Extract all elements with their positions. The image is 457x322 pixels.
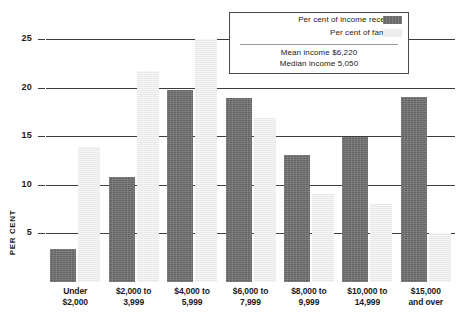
- bar-income-received: [50, 249, 76, 282]
- y-axis-tick-label: 5: [6, 227, 32, 237]
- x-axis-category-line: and over: [397, 297, 455, 308]
- bar-families: [370, 204, 392, 282]
- x-axis-category-label: $4,000 to5,999: [163, 286, 221, 308]
- x-axis-category-line: $15,000: [397, 286, 455, 297]
- y-axis-tick: [38, 39, 45, 40]
- y-axis-tick-label: 25: [6, 33, 32, 43]
- bar-families: [312, 194, 334, 282]
- y-axis-tick-label: 10: [6, 179, 32, 189]
- legend-note-mean: Mean income $6,220: [230, 47, 408, 58]
- legend-note-median: Median income 5,050: [230, 58, 408, 69]
- chart-legend: Per cent of income received Per cent of …: [229, 12, 409, 74]
- x-axis-category-line: $6,000 to: [221, 286, 279, 297]
- x-axis-category-label: $8,000 to9,999: [280, 286, 338, 308]
- legend-entry: Per cent of income received: [230, 13, 408, 26]
- y-axis-tick-label: 15: [6, 130, 32, 140]
- x-axis-category-line: 3,999: [104, 297, 162, 308]
- bar-group: [50, 20, 100, 282]
- bar-income-received: [342, 137, 368, 282]
- bar-income-received: [109, 177, 135, 282]
- x-axis-category-line: 9,999: [280, 297, 338, 308]
- x-axis-category-label: $2,000 to3,999: [104, 286, 162, 308]
- x-axis-category-label: Under$2,000: [46, 286, 104, 308]
- bar-income-received: [167, 90, 193, 282]
- x-axis-category-line: $8,000 to: [280, 286, 338, 297]
- x-axis-category-line: 5,999: [163, 297, 221, 308]
- bar-income-received: [226, 98, 252, 282]
- bar-families: [429, 233, 451, 282]
- y-axis-tick: [38, 233, 45, 234]
- y-axis-tick: [38, 136, 45, 137]
- bar-families: [78, 147, 100, 282]
- x-axis-category-line: $2,000: [46, 297, 104, 308]
- x-axis-category-line: 14,999: [338, 297, 396, 308]
- legend-entry: Per cent of families: [230, 26, 408, 39]
- x-axis-category-line: $4,000 to: [163, 286, 221, 297]
- bar-group: [109, 20, 159, 282]
- legend-divider: [240, 44, 398, 45]
- legend-swatch-families-icon: [383, 29, 402, 37]
- y-axis-tick: [38, 88, 45, 89]
- bar-income-received: [284, 155, 310, 282]
- x-axis-category-line: 7,999: [221, 297, 279, 308]
- x-axis-category-line: $10,000 to: [338, 286, 396, 297]
- bar-families: [195, 39, 217, 282]
- bar-income-received: [401, 97, 427, 282]
- x-axis-category-label: $6,000 to7,999: [221, 286, 279, 308]
- legend-swatch-income-icon: [383, 16, 402, 24]
- bar-families: [254, 118, 276, 282]
- y-axis-tick-label: 20: [6, 82, 32, 92]
- bar-families: [137, 71, 159, 282]
- bar-group: [167, 20, 217, 282]
- y-axis-tick: [38, 185, 45, 186]
- x-axis-category-line: $2,000 to: [104, 286, 162, 297]
- x-axis-category-label: $15,000and over: [397, 286, 455, 308]
- x-axis-category-label: $10,000 to14,999: [338, 286, 396, 308]
- x-axis-category-line: Under: [46, 286, 104, 297]
- bar-chart: PER CENT 510152025 Under$2,000$2,000 to3…: [0, 0, 457, 322]
